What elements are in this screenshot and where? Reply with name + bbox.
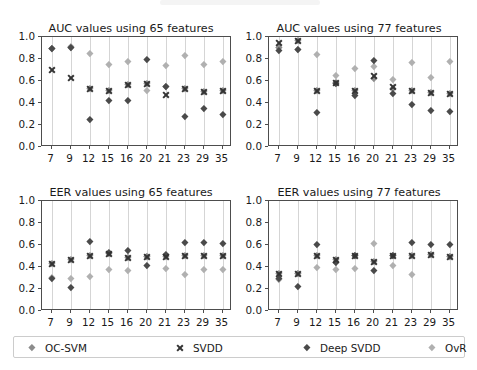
xtick-mark [411, 310, 412, 313]
ytick-label: 0.4 [222, 260, 262, 272]
ytick-label: 0.0 [222, 304, 262, 316]
legend-label: Deep SVDD [320, 342, 380, 354]
gridline-vertical [355, 201, 356, 309]
diamond-marker-icon [28, 344, 36, 352]
xtick-label: 12 [309, 316, 322, 328]
gridline-vertical [336, 201, 337, 309]
legend-entry-svdd: SVDD [174, 342, 223, 354]
xtick-mark [278, 310, 279, 313]
legend-entry-oc-svm: OC-SVM [26, 342, 87, 354]
xtick-mark [335, 310, 336, 313]
ytick-label: 0.8 [222, 216, 262, 228]
xtick-mark [392, 310, 393, 313]
panel-title: EER values using 77 features [248, 186, 470, 199]
legend-label: OC-SVM [45, 342, 87, 354]
legend-label: OvR [445, 342, 467, 354]
xtick-label: 29 [423, 316, 436, 328]
legend-marker [26, 342, 38, 354]
gridline-vertical [393, 201, 394, 309]
xtick-label: 23 [404, 316, 417, 328]
xtick-label: 20 [366, 316, 379, 328]
figure-canvas: AUC values using 65 features0.00.20.40.6… [0, 0, 477, 370]
legend-marker [426, 342, 438, 354]
legend: OC-SVMSVDDDeep SVDDOvR [13, 336, 465, 358]
ytick-label: 1.0 [222, 194, 262, 206]
gridline-vertical [412, 201, 413, 309]
xtick-label: 15 [328, 316, 341, 328]
ytick-label: 0.6 [222, 238, 262, 250]
gridline-vertical [279, 201, 280, 309]
legend-entry-deep-svdd: Deep SVDD [301, 342, 380, 354]
diamond-marker-icon [428, 344, 436, 352]
diamond-marker-icon [303, 344, 311, 352]
legend-marker [301, 342, 313, 354]
xtick-label: 21 [385, 316, 398, 328]
xtick-label: 7 [274, 316, 281, 328]
ytick-mark [265, 266, 268, 267]
xtick-mark [316, 310, 317, 313]
legend-entry-ovr: OvR [426, 342, 467, 354]
gridline-vertical [450, 201, 451, 309]
gridline-vertical [374, 201, 375, 309]
ytick-mark [265, 200, 268, 201]
gridline-vertical [317, 201, 318, 309]
gridline-vertical [298, 201, 299, 309]
xtick-mark [430, 310, 431, 313]
ytick-label: 0.2 [222, 282, 262, 294]
gridline-vertical [431, 201, 432, 309]
plot-area [268, 200, 458, 310]
xtick-mark [297, 310, 298, 313]
ytick-mark [265, 310, 268, 311]
ytick-mark [265, 222, 268, 223]
legend-label: SVDD [193, 342, 223, 354]
xtick-label: 35 [442, 316, 455, 328]
xtick-mark [354, 310, 355, 313]
x-marker-icon [176, 344, 184, 352]
ytick-mark [265, 288, 268, 289]
xtick-mark [373, 310, 374, 313]
chart-panel-bottom-right: EER values using 77 features0.00.20.40.6… [0, 0, 477, 370]
legend-marker [174, 342, 186, 354]
xtick-mark [449, 310, 450, 313]
ytick-mark [265, 244, 268, 245]
xtick-label: 16 [347, 316, 360, 328]
xtick-label: 9 [293, 316, 300, 328]
